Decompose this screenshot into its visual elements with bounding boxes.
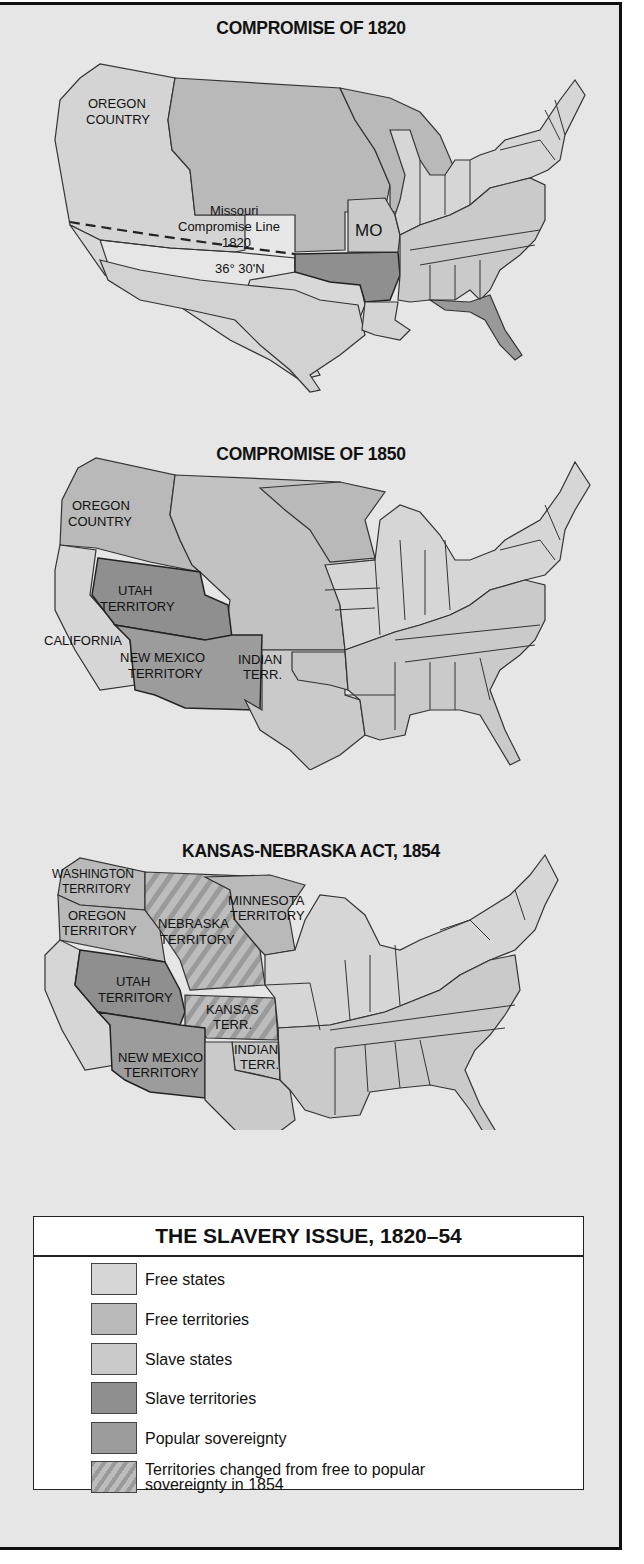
legend-label: Popular sovereignty [145,1431,286,1446]
legend-item-changed-territories: Territories changed from free to popular… [91,1461,425,1493]
label-terr-in: TERR. [240,1057,279,1072]
legend-title: THE SLAVERY ISSUE, 1820–54 [34,1217,583,1257]
legend-label: Free territories [145,1312,249,1327]
swatch-free-states [91,1263,137,1295]
label-territory-wa: TERRITORY [62,882,131,896]
label-country: COUNTRY [68,514,132,529]
map-compromise-1850: OREGON COUNTRY UTAH TERRITORY CALIFORNIA… [0,400,622,770]
region-florida [430,295,522,360]
swatch-slave-states [91,1343,137,1375]
label-country: COUNTRY [86,112,150,127]
label-indian: INDIAN [234,1042,278,1057]
label-oregon: OREGON [88,96,146,111]
legend-item-free-states: Free states [91,1263,225,1295]
legend-item-slave-states: Slave states [91,1343,232,1375]
label-territory-mn: TERRITORY [230,908,305,923]
legend: THE SLAVERY ISSUE, 1820–54 Free states F… [33,1216,584,1490]
label-utah: UTAH [116,974,150,989]
label-kansas: KANSAS [206,1002,259,1017]
legend-label: Slave territories [145,1391,256,1406]
label-oregon: OREGON [72,498,130,513]
label-oregon: OREGON [68,908,126,923]
map-kansas-nebraska-1854: WASHINGTON TERRITORY OREGON TERRITORY NE… [0,780,622,1130]
label-newmexico: NEW MEXICO [120,650,205,665]
label-minnesota: MINNESOTA [228,893,305,908]
map-compromise-1820: OREGON COUNTRY Missouri Compromise Line … [0,0,622,400]
legend-label: Free states [145,1272,225,1287]
label-terr-ks: TERR. [213,1017,252,1032]
legend-item-free-territories: Free territories [91,1303,249,1335]
label-compromise-line: Compromise Line [178,219,280,234]
label-territory-or: TERRITORY [62,923,137,938]
label-newmexico: NEW MEXICO [118,1050,203,1065]
label-missouri: Missouri [210,203,259,218]
label-latitude: 36° 30'N [215,261,265,276]
label-california: CALIFORNIA [44,633,122,648]
label-utah: UTAH [118,583,152,598]
label-territory-nm: TERRITORY [124,1065,199,1080]
region-louisiana [362,302,410,340]
legend-label: Slave states [145,1352,232,1367]
label-territory-ut: TERRITORY [98,990,173,1005]
label-territory: TERRITORY [100,599,175,614]
legend-item-slave-territories: Slave territories [91,1382,256,1414]
label-terr: TERR. [243,667,282,682]
swatch-popular-sovereignty [91,1422,137,1454]
label-mo: MO [355,221,382,240]
legend-item-popular-sovereignty: Popular sovereignty [91,1422,286,1454]
label-indian: INDIAN [238,652,282,667]
swatch-free-territories [91,1303,137,1335]
legend-label: Territories changed from free to popular… [145,1462,425,1492]
legend-label-line2: sovereignty in 1854 [145,1476,284,1493]
swatch-slave-territories [91,1382,137,1414]
label-washington: WASHINGTON [52,867,134,881]
label-territory-ne: TERRITORY [160,932,235,947]
label-territory-nm: TERRITORY [128,666,203,681]
label-1820: 1820 [222,235,251,250]
swatch-hatched [91,1461,137,1493]
label-nebraska: NEBRASKA [158,916,229,931]
